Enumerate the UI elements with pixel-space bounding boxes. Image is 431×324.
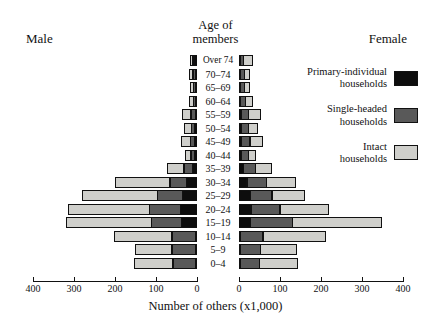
male-bar-60-64: [187, 96, 197, 107]
bar-segment-intact: [292, 217, 382, 228]
male-bar-25-29: [80, 190, 197, 201]
axis-tick: [74, 277, 75, 282]
male-bar-0-4: [133, 258, 197, 269]
bar-segment-single-headed: [250, 190, 273, 201]
bar-segment-intact: [82, 190, 158, 201]
bar-segment-intact: [66, 217, 152, 228]
bar-segment-intact: [259, 258, 298, 269]
bar-segment-intact: [248, 150, 256, 161]
female-bar-60-64: [239, 96, 255, 107]
axis-tick: [362, 277, 363, 282]
bar-segment-intact: [266, 177, 296, 188]
legend: Primary-individualhouseholdsSingle-heade…: [258, 66, 418, 178]
bar-segment-intact: [280, 204, 329, 215]
bar-segment-intact: [248, 123, 258, 134]
bar-segment-single-headed: [240, 231, 264, 242]
bar-segment-intact: [243, 55, 252, 66]
axis-tick-label: 0: [237, 283, 242, 294]
axis-tick: [280, 277, 281, 282]
bar-segment-single-headed: [240, 258, 261, 269]
legend-swatch-primary-individual: [394, 71, 418, 86]
legend-label: Primary-individualhouseholds: [307, 66, 387, 90]
age-axis-title: Age of members: [0, 18, 431, 47]
bar-segment-single-headed: [251, 204, 281, 215]
axis-tick-label: 300: [67, 283, 82, 294]
female-bar-0-4: [239, 258, 300, 269]
female-bar-50-54: [239, 123, 260, 134]
legend-label-line2: households: [340, 153, 387, 165]
female-bar-10-14: [239, 231, 328, 242]
bar-segment-intact: [244, 82, 251, 93]
age-group-label: 35–39: [197, 162, 239, 175]
legend-label: Single-headedhouseholds: [327, 103, 387, 127]
legend-label: Intacthouseholds: [340, 141, 387, 165]
female-bar-25-29: [239, 190, 307, 201]
bar-segment-primary-individual: [180, 204, 197, 215]
axis-tick: [156, 277, 157, 282]
bar-segment-intact: [167, 163, 184, 174]
axis-tick: [33, 277, 34, 282]
legend-label-line1: Primary-individual: [307, 66, 387, 78]
legend-label-line1: Intact: [340, 141, 387, 153]
bar-segment-single-headed: [240, 244, 261, 255]
age-group-label: 45–49: [197, 135, 239, 148]
age-group-label: 15–19: [197, 216, 239, 229]
age-group-label: 55–59: [197, 108, 239, 121]
female-bar-5-9: [239, 244, 298, 255]
male-bar-45-49: [179, 136, 197, 147]
male-bar-55-59: [180, 109, 197, 120]
bar-segment-primary-individual: [182, 190, 198, 201]
male-bar-65-69: [188, 82, 197, 93]
legend-label-line2: households: [307, 78, 387, 90]
axis-tick: [403, 277, 404, 282]
bar-segment-intact: [260, 244, 297, 255]
axis-tick-label: 200: [314, 283, 329, 294]
axis-tick-label: 0: [195, 283, 200, 294]
bar-segment-primary-individual: [238, 204, 251, 215]
bar-segment-single-headed: [170, 177, 187, 188]
bar-segment-intact: [68, 204, 150, 215]
bar-segment-single-headed: [243, 163, 256, 174]
axis-tick: [321, 277, 322, 282]
male-bar-70-74: [187, 69, 197, 80]
legend-label-line2: households: [327, 116, 387, 128]
bar-segment-single-headed: [247, 177, 268, 188]
legend-item-intact: Intacthouseholds: [258, 141, 418, 165]
male-bar-40-44: [183, 150, 197, 161]
axis-tick-label: 100: [273, 283, 288, 294]
bar-segment-intact: [272, 190, 305, 201]
age-label-column: Over 7470–7465–6960–6455–5950–5445–4940–…: [197, 54, 239, 270]
legend-label-line1: Single-headed: [327, 103, 387, 115]
bar-segment-intact: [134, 258, 173, 269]
male-bar-over-74: [188, 55, 197, 66]
bar-segment-intact: [244, 69, 250, 80]
age-group-label: 25–29: [197, 189, 239, 202]
female-bar-65-69: [239, 82, 253, 93]
bar-segment-intact: [114, 231, 172, 242]
population-pyramid-chart: Male Female Age of members Over 7470–746…: [0, 0, 431, 324]
female-bar-15-19: [239, 217, 385, 228]
age-group-label: 0–4: [197, 257, 239, 270]
age-group-label: 50–54: [197, 122, 239, 135]
male-x-axis: [33, 277, 197, 282]
age-group-label: 40–44: [197, 149, 239, 162]
female-bar-30-34: [239, 177, 298, 188]
age-axis-title-line2: members: [0, 32, 431, 46]
bar-segment-single-headed: [151, 217, 182, 228]
age-group-label: 5–9: [197, 243, 239, 256]
axis-tick: [197, 277, 198, 282]
female-bar-over-74: [239, 55, 255, 66]
legend-item-single-headed: Single-headedhouseholds: [258, 103, 418, 127]
age-axis-title-line1: Age of: [0, 18, 431, 32]
axis-tick-label: 100: [149, 283, 164, 294]
age-group-label: 65–69: [197, 81, 239, 94]
female-bar-70-74: [239, 69, 252, 80]
female-bar-40-44: [239, 150, 258, 161]
bar-segment-intact: [263, 231, 327, 242]
axis-tick: [239, 277, 240, 282]
male-bar-20-24: [66, 204, 197, 215]
age-group-label: 20–24: [197, 203, 239, 216]
axis-tick-label: 400: [26, 283, 41, 294]
bar-segment-primary-individual: [181, 217, 197, 228]
bar-segment-intact: [135, 244, 173, 255]
